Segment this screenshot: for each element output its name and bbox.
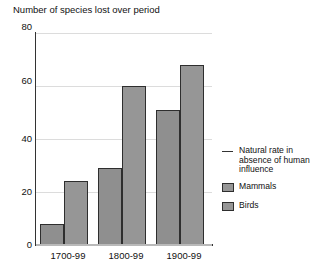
bar-1800-99-mammals (98, 168, 122, 245)
y-tick-label-80: 80 (6, 22, 32, 32)
bar-1900-99-mammals (156, 110, 180, 245)
legend-label-natural-rate: Natural rate in absence of human influen… (239, 146, 317, 175)
y-tick-label-20: 20 (6, 187, 32, 197)
legend-label-mammals: Mammals (239, 182, 276, 192)
y-tick-label-60: 60 (6, 76, 32, 86)
legend-item-mammals: Mammals (222, 182, 317, 192)
y-tick-label-0: 0 (6, 240, 32, 250)
legend-line-marker-icon (222, 146, 234, 157)
plot-area (36, 33, 212, 245)
legend-item-natural-rate: Natural rate in absence of human influen… (222, 146, 317, 175)
bar-1700-99-mammals (40, 224, 64, 245)
natural-rate-reference-line (36, 244, 212, 246)
bar-1700-99-birds (64, 181, 88, 245)
x-tick-label-1900-99: 1900-99 (154, 250, 214, 261)
legend-item-birds: Birds (222, 201, 317, 211)
bar-1900-99-birds (180, 65, 204, 245)
legend-swatch-birds-icon (222, 202, 234, 211)
chart-legend: Natural rate in absence of human influen… (222, 146, 317, 220)
x-tick-label-1800-99: 1800-99 (96, 250, 156, 261)
legend-label-birds: Birds (239, 201, 259, 211)
bar-1800-99-birds (122, 86, 146, 245)
chart-title: Number of species lost over period (13, 4, 160, 16)
bar-chart: Number of species lost over period 80 60… (0, 0, 317, 274)
x-tick-label-1700-99: 1700-99 (38, 250, 98, 261)
legend-swatch-mammals-icon (222, 183, 234, 192)
y-tick-label-40: 40 (6, 134, 32, 144)
